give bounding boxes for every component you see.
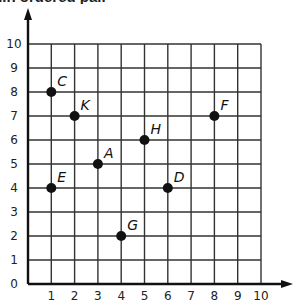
point-h: H	[140, 121, 162, 145]
data-points: CKHFAEDG	[46, 73, 229, 241]
y-tick-label: 8	[10, 85, 18, 99]
point-c: C	[46, 73, 67, 97]
y-tick-label: 5	[10, 157, 18, 171]
point-dot-icon	[46, 87, 56, 97]
point-d: D	[163, 169, 185, 193]
y-tick-label: 3	[10, 205, 18, 219]
point-dot-icon	[116, 231, 126, 241]
y-tick-label: 10	[6, 37, 21, 51]
x-tick-label: 3	[94, 289, 102, 303]
point-label: C	[57, 73, 67, 89]
tick-labels: 12345678910012345678910	[6, 37, 268, 303]
point-f: F	[209, 97, 229, 121]
point-dot-icon	[93, 159, 103, 169]
point-dot-icon	[163, 183, 173, 193]
point-dot-icon	[140, 135, 150, 145]
axes	[24, 8, 293, 288]
x-tick-label: 5	[141, 289, 149, 303]
y-axis-arrow-icon	[24, 8, 32, 20]
x-tick-label: 4	[117, 289, 125, 303]
x-tick-label: 9	[234, 289, 242, 303]
point-label: H	[151, 121, 162, 137]
point-a: A	[93, 145, 114, 169]
point-e: E	[46, 169, 66, 193]
x-tick-label: 8	[211, 289, 219, 303]
point-dot-icon	[46, 183, 56, 193]
y-tick-label: 9	[10, 61, 18, 75]
y-tick-label: 6	[10, 133, 18, 147]
y-tick-label: 7	[10, 109, 18, 123]
point-label: G	[127, 217, 138, 233]
x-tick-label: 1	[47, 289, 55, 303]
x-tick-label: 2	[71, 289, 79, 303]
y-tick-label: 0	[10, 277, 18, 291]
point-k: K	[70, 97, 92, 121]
point-label: E	[57, 169, 66, 185]
x-axis-arrow-icon	[281, 280, 293, 288]
x-tick-label: 10	[253, 289, 268, 303]
x-tick-label: 6	[164, 289, 172, 303]
point-label: A	[103, 145, 114, 161]
y-tick-label: 4	[10, 181, 18, 195]
point-g: G	[116, 217, 138, 241]
point-dot-icon	[70, 111, 80, 121]
y-tick-label: 2	[10, 229, 18, 243]
point-label: K	[81, 97, 92, 113]
point-label: F	[220, 97, 229, 113]
y-tick-label: 1	[10, 253, 18, 267]
x-tick-label: 7	[187, 289, 195, 303]
point-label: D	[174, 169, 185, 185]
coordinate-grid-chart: 12345678910012345678910 CKHFAEDG	[0, 0, 295, 305]
point-dot-icon	[209, 111, 219, 121]
